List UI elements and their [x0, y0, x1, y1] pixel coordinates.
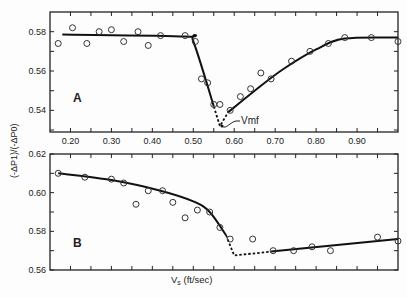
data-point [96, 29, 102, 35]
data-point [237, 94, 243, 100]
plot-frame [50, 154, 398, 270]
y-tick-label: 0.54 [28, 105, 46, 115]
data-point [108, 27, 114, 33]
panel-b: 0.560.580.600.62 [28, 149, 401, 275]
fit-curve-right [228, 37, 398, 112]
data-point [133, 201, 139, 207]
data-point [198, 76, 204, 82]
x-tick-label: 0.80 [307, 136, 325, 146]
y-tick-label: 0.56 [28, 66, 46, 76]
data-point [248, 86, 254, 92]
x-axis-label: Vs (ft/sec) [171, 274, 213, 286]
panel-b-label: B [73, 236, 82, 250]
x-axis-label-units: (ft/sec) [181, 274, 213, 285]
data-point [250, 236, 256, 242]
panel-a: 0.540.560.580.200.300.400.500.600.700.80… [28, 12, 401, 146]
data-point [194, 207, 200, 213]
fit-curve-dashed [214, 106, 228, 126]
y-tick-label: 0.62 [28, 149, 46, 159]
fit-curve-right [271, 239, 398, 252]
svg-text:Vs (ft/sec): Vs (ft/sec) [171, 274, 213, 286]
x-tick-label: 0.30 [103, 136, 121, 146]
data-point [217, 101, 223, 107]
y-tick-label: 0.60 [28, 188, 46, 198]
data-point [170, 199, 176, 205]
y-tick-label: 0.58 [28, 27, 46, 37]
data-point [70, 25, 76, 31]
x-tick-label: 0.70 [266, 136, 284, 146]
x-tick-label: 0.90 [348, 136, 366, 146]
chart-figure: 0.540.560.580.200.300.400.500.600.700.80… [0, 0, 407, 297]
y-tick-label: 0.58 [28, 226, 46, 236]
x-tick-label: 0.20 [62, 136, 80, 146]
x-tick-label: 0.60 [225, 136, 243, 146]
data-point [145, 42, 151, 48]
y-axis-label: (-ΔP1)/(-ΔP0) [9, 123, 19, 178]
fit-curve-left [58, 173, 226, 235]
data-point [84, 40, 90, 46]
panel-a-label: A [73, 91, 82, 105]
y-tick-label: 0.56 [28, 265, 46, 275]
data-point [121, 39, 127, 45]
x-tick-label: 0.40 [144, 136, 162, 146]
vmf-label: Vmf [241, 115, 259, 126]
data-point [375, 234, 381, 240]
data-point [227, 236, 233, 242]
data-point [135, 29, 141, 35]
x-tick-label: 0.50 [185, 136, 203, 146]
data-point [55, 40, 61, 46]
data-point [327, 248, 333, 254]
data-point [182, 215, 188, 221]
data-point [258, 70, 264, 76]
